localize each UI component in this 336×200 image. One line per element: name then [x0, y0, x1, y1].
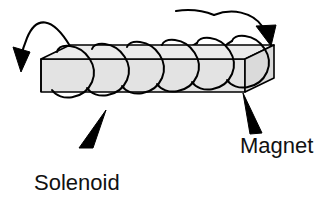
solenoid-magnet-diagram: Solenoid Magnet — [0, 0, 336, 200]
magnet-front-face — [41, 59, 245, 92]
right-lead-wire-tail — [176, 10, 214, 15]
solenoid-label: Solenoid — [34, 170, 120, 195]
magnet-label: Magnet — [240, 133, 313, 158]
solenoid-leader-triangle — [79, 110, 106, 148]
figure-root: Solenoid Magnet — [0, 0, 336, 200]
left-arrowhead-icon — [13, 47, 30, 72]
right-current-arrow — [176, 10, 276, 46]
magnet-leader-triangle — [243, 93, 262, 134]
right-lead-wire — [214, 12, 267, 35]
